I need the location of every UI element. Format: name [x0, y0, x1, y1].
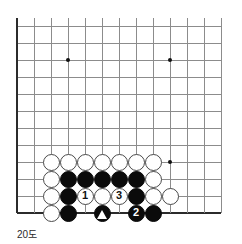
stone-white[interactable]: [43, 154, 60, 171]
stone-white[interactable]: [111, 154, 128, 171]
go-board[interactable]: 132: [0, 0, 242, 244]
stone-white[interactable]: [128, 154, 145, 171]
stone-black-marked-triangle[interactable]: [94, 205, 111, 222]
stone-white[interactable]: [94, 154, 111, 171]
stone-white[interactable]: [60, 154, 77, 171]
triangle-marker-icon: [97, 210, 107, 219]
stone-white-move-3[interactable]: 3: [111, 188, 128, 205]
grid-line-vertical: [221, 18, 222, 213]
stone-white[interactable]: [43, 171, 60, 188]
stone-move-number: 1: [82, 190, 88, 201]
stone-white[interactable]: [162, 188, 179, 205]
stone-move-number: 2: [133, 207, 139, 218]
stone-white[interactable]: [77, 154, 94, 171]
stone-black[interactable]: [60, 188, 77, 205]
stone-black[interactable]: [128, 171, 145, 188]
stone-white[interactable]: [145, 154, 162, 171]
star-point: [168, 58, 172, 62]
stone-white[interactable]: [145, 188, 162, 205]
star-point: [168, 160, 172, 164]
stone-white[interactable]: [94, 188, 111, 205]
stone-move-number: 3: [116, 190, 122, 201]
stone-black[interactable]: [128, 188, 145, 205]
stone-white[interactable]: [43, 188, 60, 205]
grid-line-vertical: [187, 18, 188, 213]
stone-black[interactable]: [60, 205, 77, 222]
grid-line-vertical: [170, 18, 171, 213]
stone-black[interactable]: [111, 171, 128, 188]
stone-black[interactable]: [60, 171, 77, 188]
grid-line-vertical: [34, 18, 35, 213]
stone-white[interactable]: [145, 171, 162, 188]
board-edge-left: [16, 18, 18, 213]
stone-white-move-1[interactable]: 1: [77, 188, 94, 205]
go-diagram-figure: 132 20도: [0, 0, 242, 244]
star-point: [66, 58, 70, 62]
stone-black[interactable]: [77, 171, 94, 188]
figure-caption: 20도: [17, 226, 37, 241]
stone-white[interactable]: [43, 205, 60, 222]
grid-line-vertical: [204, 18, 205, 213]
stone-black-move-2[interactable]: 2: [128, 205, 145, 222]
stone-black[interactable]: [145, 205, 162, 222]
stone-black[interactable]: [94, 171, 111, 188]
